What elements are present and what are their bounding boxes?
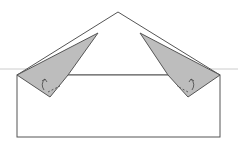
origami-diagram xyxy=(0,0,238,148)
